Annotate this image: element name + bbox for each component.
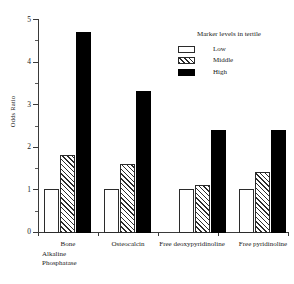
y-tick-label-4: 4	[20, 58, 31, 66]
y-tick-label-3: 3	[20, 101, 31, 109]
legend-swatch-high-icon	[178, 69, 195, 76]
x-tick-group-1	[98, 232, 99, 236]
legend-label-high: High	[213, 69, 227, 76]
y-tick-2	[33, 147, 38, 148]
y-axis-line	[38, 19, 39, 232]
x-group-label-free-deoxypyridinoline: Free deoxypyridinoline	[148, 240, 236, 250]
y-tick-1	[33, 189, 38, 190]
x-group-label-line3: Phosphatase	[38, 259, 98, 269]
y-minor-tick-1-5	[35, 168, 38, 169]
legend-label-middle: Middle	[213, 57, 233, 64]
y-tick-label-0: 0	[20, 228, 31, 236]
bar-free-pyridinoline-high	[271, 130, 286, 233]
x-group-label-line1: Bone	[61, 240, 76, 248]
bar-free-pyridinoline-low	[239, 189, 254, 233]
bar-free-deoxypyridinoline-low	[179, 189, 194, 233]
y-axis-label: Odds Ratio	[9, 82, 16, 142]
y-tick-5	[33, 19, 38, 20]
bar-bone-alkaline-phosphatase-high	[76, 32, 91, 233]
y-minor-tick-0-5	[35, 211, 38, 212]
bar-bone-alkaline-phosphatase-middle	[60, 155, 75, 233]
legend-item-high: High	[168, 67, 290, 77]
x-group-label-free-pyridinoline: Free pyridinoline	[227, 240, 294, 250]
x-group-label-line1: Free pyridinoline	[239, 240, 287, 248]
x-tick-end	[288, 232, 289, 236]
x-tick-group-2	[158, 232, 159, 236]
legend-item-low: Low	[168, 44, 290, 54]
legend: Marker levels in tertile Low Middle High	[168, 30, 290, 79]
x-group-label-line1: Free deoxypyridinoline	[159, 240, 225, 248]
y-tick-3	[33, 104, 38, 105]
bar-osteocalcin-high	[136, 91, 151, 233]
legend-title: Marker levels in tertile	[168, 30, 290, 38]
y-tick-label-2: 2	[20, 143, 31, 151]
bar-free-deoxypyridinoline-middle	[195, 185, 210, 233]
x-group-label-bone-alkaline-phosphatase: Bone Alkaline Phosphatase	[38, 240, 98, 269]
y-tick-label-1: 1	[20, 186, 31, 194]
y-minor-tick-4-5	[35, 40, 38, 41]
bar-osteocalcin-middle	[120, 164, 135, 233]
y-minor-tick-2-5	[35, 126, 38, 127]
bar-chart: Odds Ratio 5 4 3 2 1 0 Bone Alkaline Pho…	[0, 0, 294, 284]
bar-free-pyridinoline-middle	[255, 172, 270, 233]
x-group-label-line2: Alkaline	[38, 250, 98, 260]
legend-label-low: Low	[213, 46, 226, 53]
y-minor-tick-3-5	[35, 83, 38, 84]
bar-osteocalcin-low	[104, 189, 119, 233]
bar-free-deoxypyridinoline-high	[211, 130, 226, 233]
bar-bone-alkaline-phosphatase-low	[44, 189, 59, 233]
y-tick-label-5: 5	[20, 16, 31, 24]
legend-item-middle: Middle	[168, 56, 290, 66]
legend-swatch-low-icon	[178, 46, 195, 53]
y-tick-4	[33, 62, 38, 63]
x-group-label-line1: Osteocalcin	[111, 240, 144, 248]
x-tick-start	[38, 232, 39, 236]
legend-swatch-middle-icon	[178, 57, 195, 64]
